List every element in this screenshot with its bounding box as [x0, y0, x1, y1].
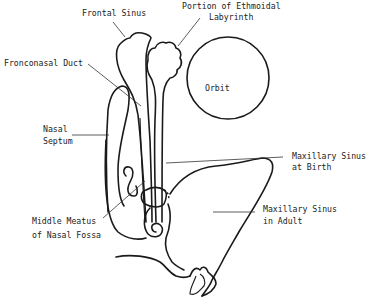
lateral-nasal-wall — [105, 140, 146, 239]
orbit-shape — [187, 37, 269, 119]
frontonasal-duct-line — [140, 118, 145, 222]
leader-max-birth — [166, 157, 283, 163]
label-ethmoid-line2: Labyrinth — [209, 12, 253, 22]
label-nasal-line1: Nasal — [43, 124, 68, 134]
maxillary-sinus-adult-shape — [170, 158, 273, 296]
label-orbit: Orbit — [205, 83, 230, 93]
label-nasal-line2: Septum — [43, 136, 73, 146]
tooth-inner-shape — [190, 274, 205, 294]
sinus-anatomy-diagram: Frontal Sinus Portion of Ethmoidal Labyr… — [0, 0, 372, 299]
label-middle-meatus-line2: of Nasal Fossa — [32, 230, 101, 240]
label-middle-meatus-line1: Middle Meatus — [32, 216, 96, 226]
maxillary-sinus-adult-inner — [165, 204, 184, 270]
label-max-birth-line1: Maxillary Sinus — [292, 151, 366, 161]
frontal-sinus-shape — [117, 33, 152, 222]
label-max-birth-line2: at Birth — [292, 162, 332, 172]
label-ethmoid-line1: Portion of Ethmoidal — [182, 1, 281, 11]
leader-frontonasal-duct — [88, 64, 141, 106]
label-max-adult-line2: in Adult — [263, 216, 303, 226]
leader-middle-meatus — [103, 181, 145, 218]
leader-frontal-sinus — [113, 22, 125, 37]
leader-ethmoid — [178, 18, 200, 46]
label-frontal-sinus: Frontal Sinus — [82, 8, 146, 18]
inferior-turbinate-shape — [144, 208, 162, 237]
superior-turbinate-shape — [124, 167, 137, 196]
nasal-septum-shape — [107, 86, 130, 212]
label-max-adult-line1: Maxillary Sinus — [263, 204, 337, 214]
label-frontonasal-duct: Fronconasal Duct — [4, 58, 83, 68]
